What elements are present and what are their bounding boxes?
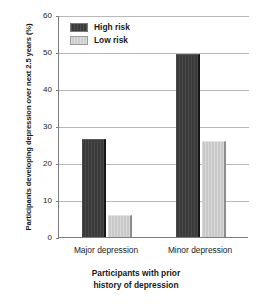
y-tick-mark xyxy=(56,127,59,128)
bar-minor-depression-high-risk xyxy=(176,54,200,237)
bar-chart-figure: Participants developing depression over … xyxy=(0,0,272,306)
legend-label-low-risk: Low risk xyxy=(94,36,128,45)
x-axis-title-line-1: Participants with prior xyxy=(0,267,272,279)
y-tick-label: 40 xyxy=(30,86,52,94)
y-tick-label: 60 xyxy=(30,12,52,20)
y-tick-mark xyxy=(56,16,59,17)
y-tick-label: 50 xyxy=(30,49,52,57)
legend-swatch-low-risk xyxy=(70,36,88,45)
y-tick-label: 10 xyxy=(30,197,52,205)
x-axis-category-label-major-depression: Major depression xyxy=(58,245,154,255)
bar-major-depression-high-risk xyxy=(82,139,106,237)
y-gridline xyxy=(59,127,249,128)
x-axis-title: Participants with prior history of depre… xyxy=(0,267,272,291)
x-axis-category-label-minor-depression: Minor depression xyxy=(152,245,248,255)
y-gridline xyxy=(59,16,249,17)
legend-swatch-high-risk xyxy=(70,23,88,32)
y-tick-mark xyxy=(56,90,59,91)
y-tick-mark xyxy=(56,238,59,239)
legend-label-high-risk: High risk xyxy=(94,23,130,32)
bar-major-depression-low-risk xyxy=(108,215,132,237)
y-tick-label: 20 xyxy=(30,160,52,168)
y-tick-label: 0 xyxy=(30,234,52,242)
bar-minor-depression-low-risk xyxy=(202,141,226,237)
legend-item-high-risk: High risk xyxy=(70,21,164,34)
y-tick-mark xyxy=(56,164,59,165)
x-axis-title-line-2: history of depression xyxy=(0,279,272,291)
y-tick-mark xyxy=(56,201,59,202)
legend-item-low-risk: Low risk xyxy=(70,34,164,47)
chart-legend: High risk Low risk xyxy=(66,18,168,51)
y-tick-mark xyxy=(56,53,59,54)
y-tick-label: 30 xyxy=(30,123,52,131)
y-gridline xyxy=(59,90,249,91)
y-gridline xyxy=(59,53,249,54)
